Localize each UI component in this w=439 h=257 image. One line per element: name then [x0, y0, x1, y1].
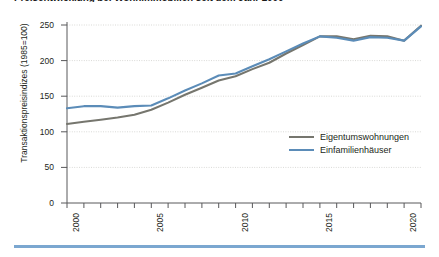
x-tick-2005: 2005 — [155, 213, 165, 232]
legend-swatch-icon-gray — [289, 136, 314, 138]
bottom-divider — [14, 245, 425, 248]
legend-swatch-icon-blue — [289, 149, 314, 151]
x-tick-2020: 2020 — [408, 213, 418, 232]
chart-legend: Eigentumswohnungen Einfamilienhäuser — [289, 131, 409, 157]
x-tick-2000: 2000 — [71, 213, 81, 232]
plot-area — [0, 0, 439, 235]
chart-page: Preisentwicklung bei Wohnimmobilien seit… — [0, 0, 439, 257]
legend-item-eigentumswohnungen: Eigentumswohnungen — [289, 131, 409, 143]
series-line-eigentumswohnungen — [67, 26, 421, 124]
line-chart: Transaktionspreisindizes (1985=100) 250 … — [0, 0, 439, 235]
x-tick-2015: 2015 — [324, 213, 334, 232]
x-axis-ticks: 2000 2005 2010 2015 2020 — [0, 206, 439, 236]
legend-label-einfamilienhaeuser: Einfamilienhäuser — [320, 144, 392, 156]
x-tick-2010: 2010 — [240, 213, 250, 232]
legend-item-einfamilienhaeuser: Einfamilienhäuser — [289, 144, 409, 156]
axis-lines — [61, 22, 421, 203]
legend-label-eigentumswohnungen: Eigentumswohnungen — [320, 131, 409, 143]
